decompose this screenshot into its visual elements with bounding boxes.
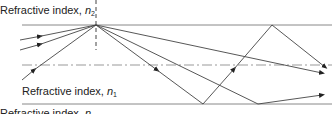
top-medium-label: Refractive index, n2: [0, 5, 95, 17]
bottom-medium-label: Refractive index, n: [0, 108, 91, 114]
bottom-label-symbol: n: [85, 107, 91, 114]
top-label-prefix: Refractive index,: [0, 4, 85, 16]
top-label-subscript: 2: [91, 10, 95, 17]
middle-label-subscript: 1: [113, 91, 117, 98]
incoming-rays: [20, 25, 96, 80]
middle-medium-label: Refractive index, n1: [22, 86, 117, 98]
bottom-label-prefix: Refractive index,: [0, 107, 85, 114]
middle-label-prefix: Refractive index,: [22, 85, 107, 97]
